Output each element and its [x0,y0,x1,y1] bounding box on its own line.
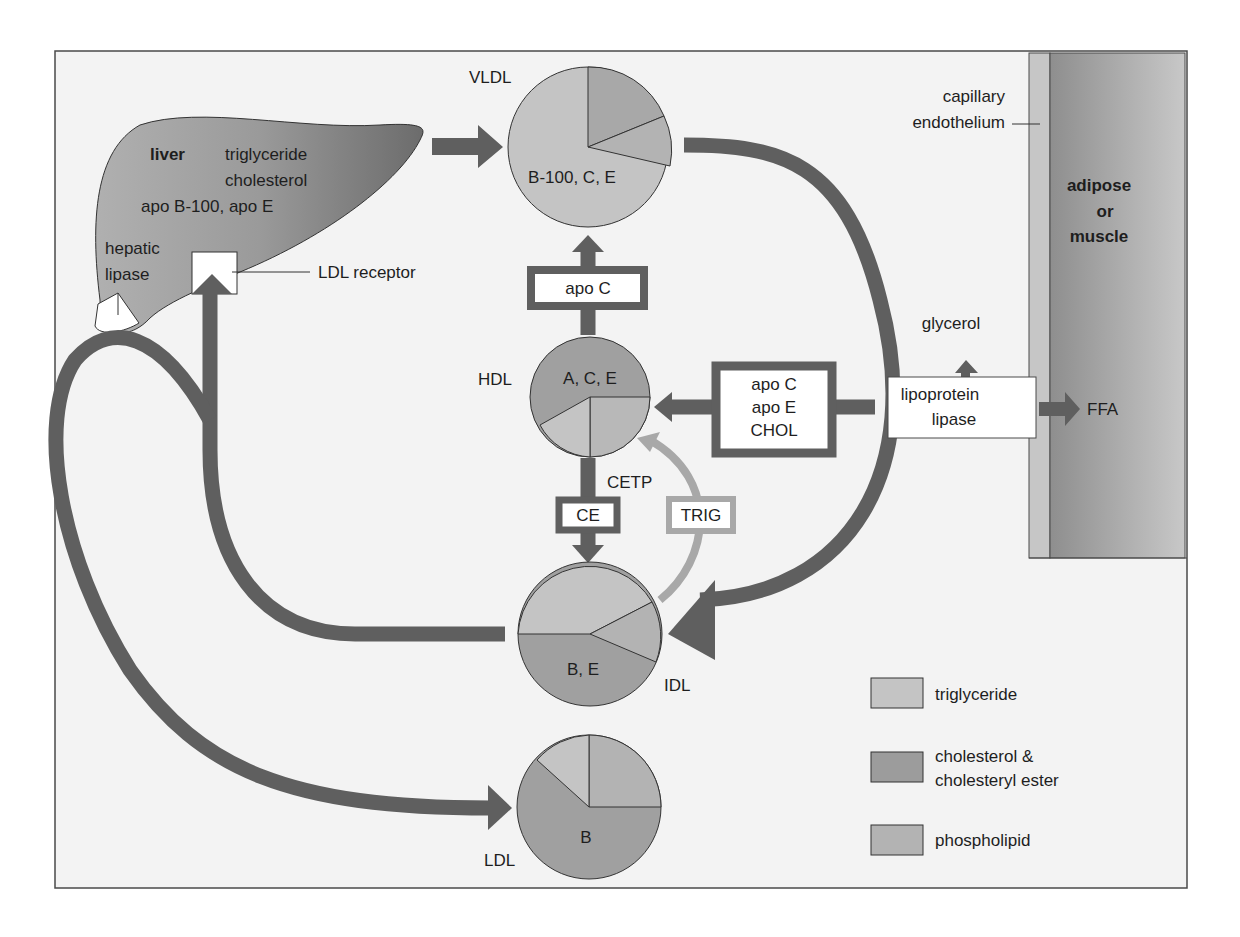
ldl-particle: B [517,735,661,879]
legend-swatch-triglyceride [871,678,923,708]
endothelium-line1: capillary [943,87,1006,106]
transfer-line-chol: CHOL [750,421,797,440]
endothelium-line2: endothelium [912,113,1005,132]
legend-label-cholesterol-2: cholesteryl ester [935,771,1059,790]
hdl-label: HDL [478,370,512,389]
lipoprotein-metabolism-diagram: lipoprotein lipase apo C apo C apo E CHO… [0,0,1240,937]
tissue-label-line3: muscle [1070,227,1129,246]
tissue-label-line2: or [1097,202,1114,221]
tissue-panel [1029,53,1187,558]
trig-label: TRIG [681,506,722,525]
legend-label-cholesterol-1: cholesterol & [935,747,1034,766]
vldl-apos: B-100, C, E [528,168,616,187]
lipoprotein-lipase-line1: lipoprotein [901,385,979,404]
hdl-particle: A, C, E [530,337,650,457]
legend-label-triglyceride: triglyceride [935,685,1017,704]
tissue-label-line1: adipose [1067,176,1131,195]
ce-label: CE [576,506,600,525]
idl-particle: B, E [518,562,662,706]
idl-apos: B, E [567,660,599,679]
legend-swatch-cholesterol [871,752,923,782]
liver-content-triglyceride: triglyceride [225,145,307,164]
ce-box: CE [559,500,617,530]
transfer-line-apo-e: apo E [752,398,796,417]
liver-content-cholesterol: cholesterol [225,171,307,190]
apo-c-label: apo C [565,279,610,298]
legend-label-phospholipid: phospholipid [935,831,1030,850]
ldl-receptor-label: LDL receptor [318,263,416,282]
apo-c-box: apo C [531,270,644,306]
legend-swatch-phospholipid [871,825,923,855]
adipose-muscle-tissue [1050,53,1185,558]
transfer-line-apo-c: apo C [751,375,796,394]
vldl-label: VLDL [469,68,512,87]
hdl-apos: A, C, E [563,369,617,388]
lipoprotein-lipase-box: lipoprotein lipase [888,377,1036,438]
liver-content-apos: apo B-100, apo E [141,197,273,216]
ffa-label: FFA [1087,400,1119,419]
idl-label: IDL [664,676,690,695]
hepatic-lipase-line1: hepatic [105,239,160,258]
apo-c-e-chol-box: apo C apo E CHOL [716,366,832,453]
hepatic-lipase-line2: lipase [105,265,149,284]
liver-title: liver [150,145,185,164]
ldl-apos: B [580,828,591,847]
lipoprotein-lipase-line2: lipase [932,410,976,429]
trig-box: TRIG [669,499,733,531]
glycerol-label: glycerol [922,314,981,333]
ldl-label: LDL [484,851,515,870]
cetp-label: CETP [607,473,652,492]
capillary-endothelium [1029,53,1050,558]
